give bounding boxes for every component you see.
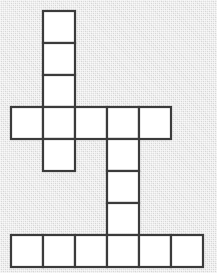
grid-cell: [43, 107, 75, 139]
polyomino-grid: [0, 0, 217, 273]
grid-cell: [139, 235, 171, 267]
grid-cell: [43, 11, 75, 43]
grid-cell: [107, 235, 139, 267]
grid-cell: [107, 107, 139, 139]
figure-canvas: [0, 0, 217, 273]
grid-cell: [107, 139, 139, 171]
grid-cell: [139, 107, 171, 139]
grid-cell: [107, 203, 139, 235]
grid-cell: [11, 235, 43, 267]
grid-cell: [43, 75, 75, 107]
grid-cell: [171, 235, 203, 267]
grid-cell: [107, 171, 139, 203]
grid-cell: [43, 43, 75, 75]
grid-cell: [11, 107, 43, 139]
grid-cell: [75, 235, 107, 267]
grid-cell: [75, 107, 107, 139]
grid-cell: [43, 139, 75, 171]
grid-cell: [43, 235, 75, 267]
